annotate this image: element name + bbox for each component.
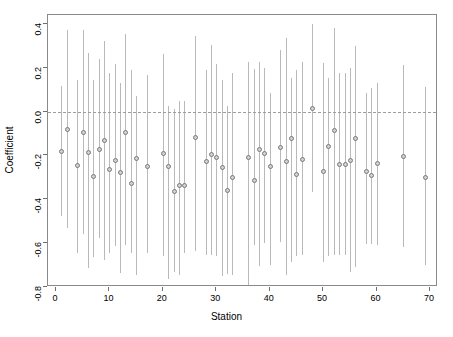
data-point	[423, 175, 428, 180]
data-point	[401, 154, 406, 159]
data-point	[294, 172, 299, 177]
data-point	[172, 189, 177, 194]
confidence-interval-line	[350, 68, 351, 272]
confidence-interval-line	[270, 93, 271, 265]
data-point	[252, 178, 257, 183]
confidence-interval-line	[88, 53, 89, 268]
x-tick-mark	[55, 287, 56, 291]
x-tick-mark	[429, 287, 430, 291]
confidence-interval-line	[355, 46, 356, 268]
confidence-interval-line	[195, 36, 196, 251]
data-point	[284, 159, 289, 164]
data-point	[348, 158, 353, 163]
confidence-interval-line	[291, 78, 292, 262]
data-point	[230, 175, 235, 180]
confidence-interval-line	[222, 80, 223, 276]
data-point	[166, 164, 171, 169]
x-tick-label: 50	[317, 293, 327, 304]
data-point	[364, 169, 369, 174]
confidence-interval-line	[125, 34, 126, 246]
data-point	[129, 181, 134, 186]
confidence-interval-line	[104, 41, 105, 259]
data-point	[75, 163, 80, 168]
confidence-interval-line	[216, 64, 217, 256]
plot-area	[47, 14, 437, 286]
confidence-interval-line	[179, 101, 180, 275]
confidence-interval-line	[93, 80, 94, 258]
confidence-interval-line	[136, 96, 137, 275]
data-point	[204, 159, 209, 164]
confidence-interval-line	[323, 63, 324, 262]
data-point	[182, 183, 187, 188]
data-point	[278, 145, 283, 150]
data-point	[268, 164, 273, 169]
y-tick-label: 0.2	[33, 67, 43, 80]
data-point	[214, 155, 219, 160]
confidence-interval-line	[254, 69, 255, 246]
y-tick-label: -0.2	[33, 154, 43, 170]
x-tick-mark	[162, 287, 163, 291]
x-tick-label: 30	[210, 293, 220, 304]
confidence-interval-line	[131, 70, 132, 253]
x-axis-title: Station	[0, 311, 453, 322]
confidence-interval-line	[184, 101, 185, 253]
y-tick-label: -0.8	[33, 286, 43, 302]
x-tick-mark	[322, 287, 323, 291]
data-point	[161, 151, 166, 156]
data-point	[81, 130, 86, 135]
data-point	[209, 152, 214, 157]
data-point	[113, 158, 118, 163]
y-tick-label: -0.4	[33, 198, 43, 214]
y-tick-label: -0.6	[33, 242, 43, 258]
data-point	[332, 128, 337, 133]
data-point	[246, 155, 251, 160]
x-tick-label: 60	[371, 293, 381, 304]
data-point	[326, 144, 331, 149]
x-tick-mark	[269, 287, 270, 291]
data-point	[375, 161, 380, 166]
data-point	[310, 106, 315, 111]
confidence-interval-line	[109, 73, 110, 253]
x-tick-mark	[108, 287, 109, 291]
y-tick-label: 0.4	[33, 23, 43, 36]
confidence-interval-line	[296, 70, 297, 256]
x-tick-label: 70	[424, 293, 434, 304]
data-series-layer	[48, 15, 436, 285]
data-point	[97, 147, 102, 152]
confidence-interval-line	[211, 45, 212, 256]
x-axis-title-label: Station	[211, 311, 242, 322]
data-point	[321, 169, 326, 174]
data-point	[289, 136, 294, 141]
y-tick-mark	[43, 286, 47, 287]
confidence-interval-line	[259, 62, 260, 266]
data-point	[91, 174, 96, 179]
data-point	[86, 150, 91, 155]
data-point	[353, 136, 358, 141]
data-point	[107, 167, 112, 172]
data-point	[257, 147, 262, 152]
data-point	[65, 127, 70, 132]
y-tick-label: 0.0	[33, 111, 43, 124]
data-point	[145, 164, 150, 169]
confidence-interval-line	[115, 64, 116, 246]
confidence-interval-line	[328, 78, 329, 257]
x-tick-mark	[376, 287, 377, 291]
confidence-interval-line	[248, 62, 249, 286]
chart-figure: Coefficient 0.40.20.0-0.2-0.4-0.6-0.8 01…	[0, 0, 453, 337]
data-point	[369, 173, 374, 178]
data-point	[59, 149, 64, 154]
confidence-interval-line	[334, 28, 335, 255]
data-point	[343, 162, 348, 167]
data-point	[134, 156, 139, 161]
x-tick-label: 10	[103, 293, 113, 304]
data-point	[123, 130, 128, 135]
x-tick-label: 20	[157, 293, 167, 304]
confidence-interval-line	[168, 106, 169, 279]
x-tick-label: 0	[52, 293, 57, 304]
data-point	[177, 183, 182, 188]
data-point	[193, 135, 198, 140]
x-tick-label: 40	[264, 293, 274, 304]
data-point	[225, 188, 230, 193]
zero-reference-line	[48, 112, 436, 113]
data-point	[337, 162, 342, 167]
